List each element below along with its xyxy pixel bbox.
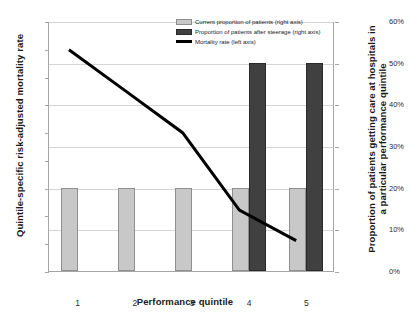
legend-item: Proportion of patients after steerage (r…	[176, 27, 336, 36]
tick-mark-right	[335, 147, 339, 148]
y-axis-right-title: Proportion of patients getting care at h…	[366, 24, 388, 254]
legend-label: Current proportion of patients (right ax…	[195, 19, 303, 25]
y-tick-right: 60%	[389, 17, 409, 26]
legend-swatch-mortality	[176, 40, 192, 43]
y-tick-right: 30%	[389, 142, 409, 151]
mortality-rate-line	[49, 22, 333, 271]
legend-swatch-current	[176, 19, 192, 25]
chart-legend: Current proportion of patients (right ax…	[176, 17, 336, 47]
legend-item: Mortality rate (left axis)	[176, 37, 336, 46]
x-tick-label: 1	[58, 298, 98, 308]
x-tick-label: 5	[286, 298, 326, 308]
y-tick-right: 20%	[389, 184, 409, 193]
legend-item: Current proportion of patients (right ax…	[176, 17, 336, 26]
x-tick-label: 3	[172, 298, 212, 308]
plot-area: 0%1%2%3%4%5%6%7%8%9% 0%10%20%30%40%50%60…	[48, 22, 334, 272]
tick-mark-right	[335, 272, 339, 273]
y-tick-right: 50%	[389, 59, 409, 68]
y-tick-right: 0%	[389, 267, 409, 276]
y-tick-right: 10%	[389, 225, 409, 234]
tick-mark-left	[45, 272, 49, 273]
x-tick-label: 4	[229, 298, 269, 308]
legend-label: Proportion of patients after steerage (r…	[195, 29, 320, 35]
tick-mark-right	[335, 105, 339, 106]
y-tick-right: 40%	[389, 100, 409, 109]
tick-mark-right	[335, 189, 339, 190]
y-axis-left-title: Quintile-specific risk-adjusted mortalit…	[14, 31, 25, 241]
legend-swatch-steerage	[176, 29, 192, 35]
tick-mark-right	[335, 230, 339, 231]
legend-label: Mortality rate (left axis)	[195, 39, 256, 45]
tick-mark-right	[335, 64, 339, 65]
x-tick-label: 2	[115, 298, 155, 308]
